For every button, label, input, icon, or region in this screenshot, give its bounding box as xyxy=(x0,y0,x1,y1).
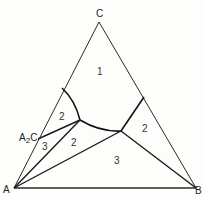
region-label-left-small: 3 xyxy=(42,141,48,152)
curve-middle xyxy=(80,120,121,131)
region-label-bottom: 3 xyxy=(114,155,120,166)
line-right-boundary xyxy=(121,97,144,131)
compound-label-a2c: A2C xyxy=(19,132,37,145)
region-label-right: 2 xyxy=(142,123,148,134)
ternary-diagram: C A B A2C 1 2 3 2 2 3 xyxy=(0,0,202,199)
region-label-upper-left: 2 xyxy=(59,111,65,122)
tie-junction-b xyxy=(121,131,196,188)
tie-a-junction-left xyxy=(14,120,80,188)
region-label-top: 1 xyxy=(97,66,103,77)
vertex-label-a: A xyxy=(3,184,10,195)
edge-ca xyxy=(14,22,99,188)
curve-upper-left xyxy=(62,88,80,120)
vertex-label-b: B xyxy=(195,185,202,196)
region-label-middle: 2 xyxy=(71,137,77,148)
vertex-label-c: C xyxy=(96,8,103,19)
